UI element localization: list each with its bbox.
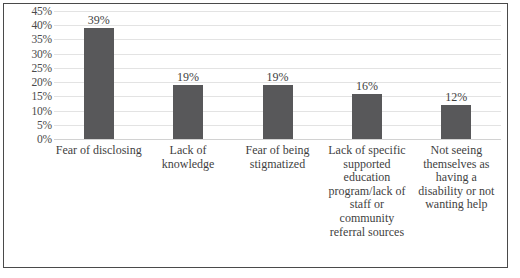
y-axis-tick-label: 20%: [8, 77, 52, 88]
bar-value-label: 12%: [445, 91, 467, 103]
x-axis-category-label: Lack of knowledge: [143, 144, 232, 171]
bar-series: 39%19%19%16%12%: [54, 11, 501, 139]
bar[interactable]: 19%: [263, 85, 293, 139]
bar[interactable]: 16%: [352, 94, 382, 140]
bar-value-label: 16%: [356, 80, 378, 92]
bar-value-label: 39%: [88, 14, 110, 26]
x-axis-category-label: Not seeing themselves as having a disabi…: [412, 144, 501, 212]
chart-frame: 45%40%35%30%25%20%15%10%5%0% 39%19%19%16…: [3, 3, 508, 268]
axis-baseline: [54, 139, 501, 140]
x-axis-category-label: Fear of disclosing: [54, 144, 143, 158]
y-axis-tick-label: 35%: [8, 34, 52, 45]
bar-slot: 19%: [233, 11, 322, 139]
y-axis-tick-label: 15%: [8, 91, 52, 102]
x-axis-category-label: Fear of being stigmatized: [233, 144, 322, 171]
bar-slot: 19%: [143, 11, 232, 139]
plot-area: 39%19%19%16%12%: [54, 11, 501, 139]
bar-slot: 12%: [412, 11, 501, 139]
y-axis-tick-label: 10%: [8, 105, 52, 116]
bar[interactable]: 19%: [173, 85, 203, 139]
bar-value-label: 19%: [267, 71, 289, 83]
y-axis-tick-label: 25%: [8, 62, 52, 73]
y-axis-tick-label: 30%: [8, 48, 52, 59]
x-axis-category-label: Lack of specific supported education pro…: [322, 144, 411, 239]
y-axis-tick-label: 40%: [8, 20, 52, 31]
bar-slot: 16%: [322, 11, 411, 139]
x-axis: Fear of disclosingLack of knowledgeFear …: [54, 144, 501, 265]
bar[interactable]: 39%: [84, 28, 114, 139]
y-axis-tick-label: 5%: [8, 119, 52, 130]
y-axis-tick-label: 0%: [8, 134, 52, 145]
y-axis: 45%40%35%30%25%20%15%10%5%0%: [8, 11, 52, 139]
bar[interactable]: 12%: [441, 105, 471, 139]
y-axis-tick-label: 45%: [8, 6, 52, 17]
chart-plot-wrapper: 45%40%35%30%25%20%15%10%5%0% 39%19%19%16…: [4, 4, 507, 267]
bar-slot: 39%: [54, 11, 143, 139]
bar-value-label: 19%: [177, 71, 199, 83]
